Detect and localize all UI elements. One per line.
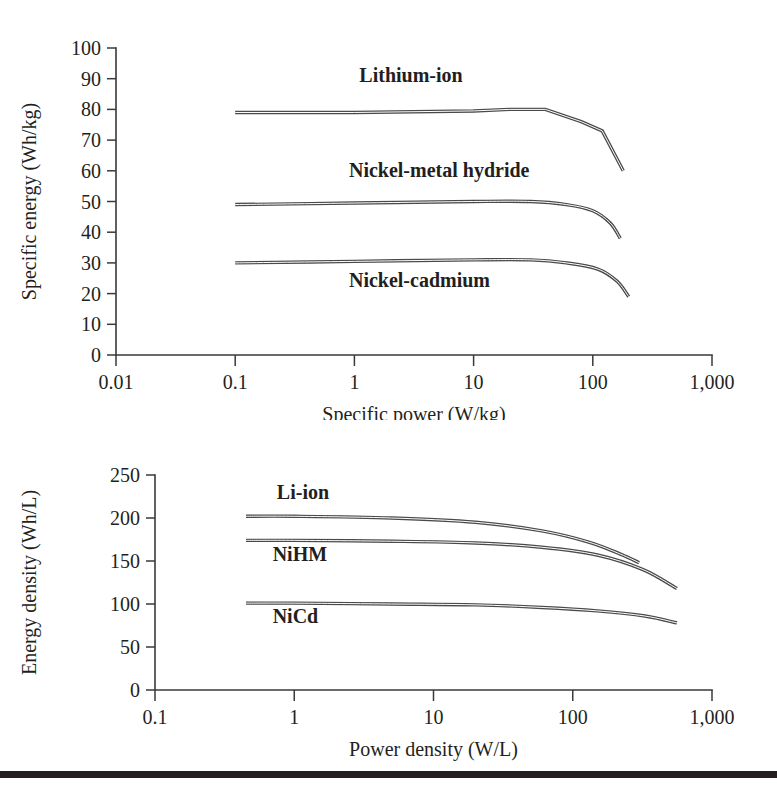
series-label: Nickel-cadmium: [349, 269, 490, 291]
y-tick-label: 150: [110, 550, 140, 572]
x-tick-label: 0.1: [223, 371, 248, 393]
y-tick-label: 50: [81, 191, 101, 213]
series-trace-core: [235, 201, 620, 238]
x-tick-label: 1: [349, 371, 359, 393]
chart-specific-energy-vs-specific-power: 01020304050607080901000.010.11101001,000…: [0, 0, 777, 420]
x-axis-title: Specific power (W/kg): [322, 403, 505, 420]
series-label: Li-ion: [277, 481, 329, 503]
y-tick-label: 10: [81, 313, 101, 335]
figure-root: 01020304050607080901000.010.11101001,000…: [0, 0, 777, 794]
series-label: NiCd: [273, 605, 319, 627]
x-tick-label: 1,000: [690, 706, 735, 728]
y-tick-label: 30: [81, 252, 101, 274]
y-tick-label: 70: [81, 129, 101, 151]
y-tick-label: 0: [130, 679, 140, 701]
series-label: Nickel-metal hydride: [349, 159, 530, 182]
bottom-rule: [0, 771, 777, 778]
y-tick-label: 80: [81, 98, 101, 120]
x-axis-title: Power density (W/L): [349, 738, 518, 761]
y-tick-label: 250: [110, 464, 140, 486]
series-trace: [235, 201, 620, 238]
x-tick-label: 100: [578, 371, 608, 393]
y-tick-label: 90: [81, 68, 101, 90]
x-tick-label: 0.01: [99, 371, 134, 393]
x-tick-label: 0.1: [143, 706, 168, 728]
chart-energy-density-vs-power-density: 0501001502002500.11101001,000Power densi…: [0, 420, 777, 780]
y-axis-title: Specific energy (Wh/kg): [18, 103, 41, 300]
series-label: NiHM: [273, 543, 328, 565]
series-label: Lithium-ion: [359, 64, 462, 86]
y-tick-label: 0: [91, 344, 101, 366]
x-tick-label: 100: [558, 706, 588, 728]
y-tick-label: 200: [110, 507, 140, 529]
series-trace-outline: [235, 201, 620, 238]
axis-lines: [155, 475, 712, 690]
x-tick-label: 10: [424, 706, 444, 728]
y-tick-label: 100: [71, 37, 101, 59]
x-tick-label: 10: [464, 371, 484, 393]
y-axis-title: Energy density (Wh/L): [18, 490, 41, 675]
y-tick-label: 50: [120, 636, 140, 658]
y-tick-label: 40: [81, 221, 101, 243]
y-tick-label: 100: [110, 593, 140, 615]
y-tick-label: 20: [81, 283, 101, 305]
y-tick-label: 60: [81, 160, 101, 182]
x-tick-label: 1: [289, 706, 299, 728]
x-tick-label: 1,000: [690, 371, 735, 393]
